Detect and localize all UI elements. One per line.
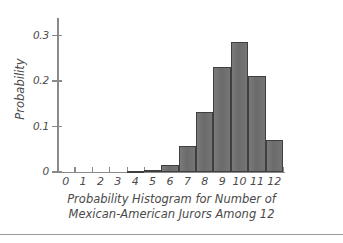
- y-axis-title: Probability: [13, 44, 27, 134]
- chart-title: Probability Histogram for Number of Mexi…: [0, 192, 343, 222]
- x-tick-label: 5: [149, 175, 156, 188]
- x-tick-label: 7: [184, 175, 191, 188]
- bar: [127, 171, 144, 173]
- x-tick-label: 4: [132, 175, 139, 188]
- bar: [144, 170, 161, 172]
- bar: [161, 165, 178, 172]
- x-tick-label: 6: [167, 175, 174, 188]
- bar: [248, 76, 265, 172]
- bar: [266, 140, 283, 172]
- x-tick-mark: [57, 167, 58, 174]
- bottom-divider: [0, 234, 343, 235]
- y-axis-line: [57, 18, 59, 173]
- x-tick-label: 10: [233, 175, 247, 188]
- y-tick-mark: [52, 126, 62, 127]
- figure: 00.10.20.3 0123456789101112 Probability …: [0, 0, 343, 243]
- x-tick-label: 0: [62, 175, 69, 188]
- chart-title-line-1: Probability Histogram for Number of: [0, 192, 343, 207]
- x-tick-label: 11: [250, 175, 264, 188]
- x-tick-label: 12: [267, 175, 281, 188]
- bar: [179, 146, 196, 172]
- y-tick-mark: [52, 35, 62, 36]
- x-tick-label: 3: [114, 175, 121, 188]
- bar: [196, 112, 213, 172]
- x-tick-label: 2: [97, 175, 104, 188]
- x-tick-mark: [283, 167, 284, 174]
- x-tick-mark: [92, 167, 93, 174]
- x-tick-mark: [74, 167, 75, 174]
- chart-title-line-2: Mexican-American Jurors Among 12: [0, 207, 343, 222]
- y-tick-label: 0.3: [23, 29, 49, 41]
- x-tick-label: 1: [80, 175, 87, 188]
- bar: [231, 42, 248, 172]
- x-tick-label: 8: [201, 175, 208, 188]
- x-tick-label: 9: [219, 175, 226, 188]
- y-tick-label: 0: [23, 165, 49, 177]
- x-tick-mark: [109, 167, 110, 174]
- y-tick-mark: [52, 80, 62, 81]
- bar: [213, 67, 230, 172]
